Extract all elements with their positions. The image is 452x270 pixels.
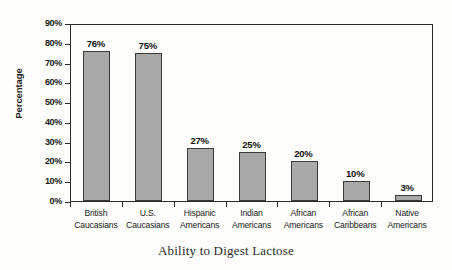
x-axis-category-label-line1: Hispanic [184, 208, 216, 218]
x-axis-tick-mark [122, 202, 123, 207]
x-axis-category-label-line1: British [85, 208, 108, 218]
y-axis-tick-label: 60% [45, 77, 62, 87]
x-axis-category-label: NativeAmericans [377, 208, 437, 231]
y-axis-tick-label: 40% [45, 117, 62, 127]
y-axis-tick-label: 0% [50, 196, 62, 206]
x-axis-tick-mark [70, 202, 71, 207]
bar-value-label: 76% [71, 38, 121, 49]
x-axis-tick-mark [329, 202, 330, 207]
bar-value-label: 3% [382, 182, 432, 193]
x-axis-title: Ability to Digest Lactose [0, 243, 452, 259]
bar [135, 53, 162, 201]
bar [395, 195, 422, 201]
bar [83, 51, 110, 201]
y-axis-tick-label: 70% [45, 58, 62, 68]
x-axis-category-label-line1: Indian [240, 208, 263, 218]
bar-value-label: 27% [175, 135, 225, 146]
bar [239, 152, 266, 201]
y-axis-tick-label: 30% [45, 137, 62, 147]
x-axis-category-label-line1: U.S. [140, 208, 156, 218]
bar-value-label: 25% [227, 139, 277, 150]
x-axis-category-label-line1: African [342, 208, 368, 218]
y-axis-tick-label: 10% [45, 176, 62, 186]
y-axis-title: Percentage [13, 54, 24, 134]
x-axis-tick-mark [226, 202, 227, 207]
bar-value-label: 10% [330, 168, 380, 179]
y-axis-tick-label: 50% [45, 97, 62, 107]
y-axis-tick-label: 90% [45, 18, 62, 28]
x-axis-category-label-line1: African [290, 208, 316, 218]
bar [291, 161, 318, 201]
bar [343, 181, 370, 201]
y-axis-tick-label: 20% [45, 156, 62, 166]
x-axis-tick-mark [277, 202, 278, 207]
x-axis-tick-mark [381, 202, 382, 207]
x-axis-tick-mark [174, 202, 175, 207]
bar [187, 148, 214, 201]
x-axis-category-label-line1: Native [395, 208, 418, 218]
x-axis-category-label-line2: Americans [377, 220, 437, 232]
bar-value-label: 75% [123, 40, 173, 51]
bar-value-label: 20% [278, 148, 328, 159]
y-axis-tick-label: 80% [45, 38, 62, 48]
bar-chart-figure: Percentage 0%10%20%30%40%50%60%70%80%90%… [0, 0, 452, 270]
